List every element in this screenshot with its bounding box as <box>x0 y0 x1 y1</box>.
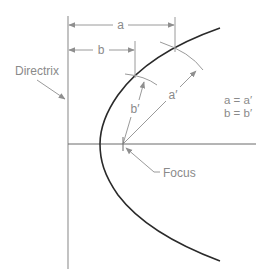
arc-b <box>125 74 157 85</box>
radius-a-prime-upper <box>180 71 196 87</box>
dimension-b-label: b <box>98 43 105 57</box>
directrix-leader <box>37 80 65 99</box>
dimension-a-label: a <box>117 18 124 32</box>
radius-b-prime-label: b′ <box>131 102 141 116</box>
equation-b: b = b′ <box>224 107 252 119</box>
directrix-label: Directrix <box>15 64 59 78</box>
radius-a-prime-label: a′ <box>169 88 179 102</box>
parabola-diagram: a b a′ b′ Focus Directrix a = a′ b = b′ <box>0 0 267 278</box>
radius-b-prime-upper <box>139 82 144 100</box>
equation-a: a = a′ <box>224 94 252 106</box>
arc-a <box>160 42 203 70</box>
focus-label: Focus <box>163 166 196 180</box>
focus-leader <box>126 148 160 172</box>
